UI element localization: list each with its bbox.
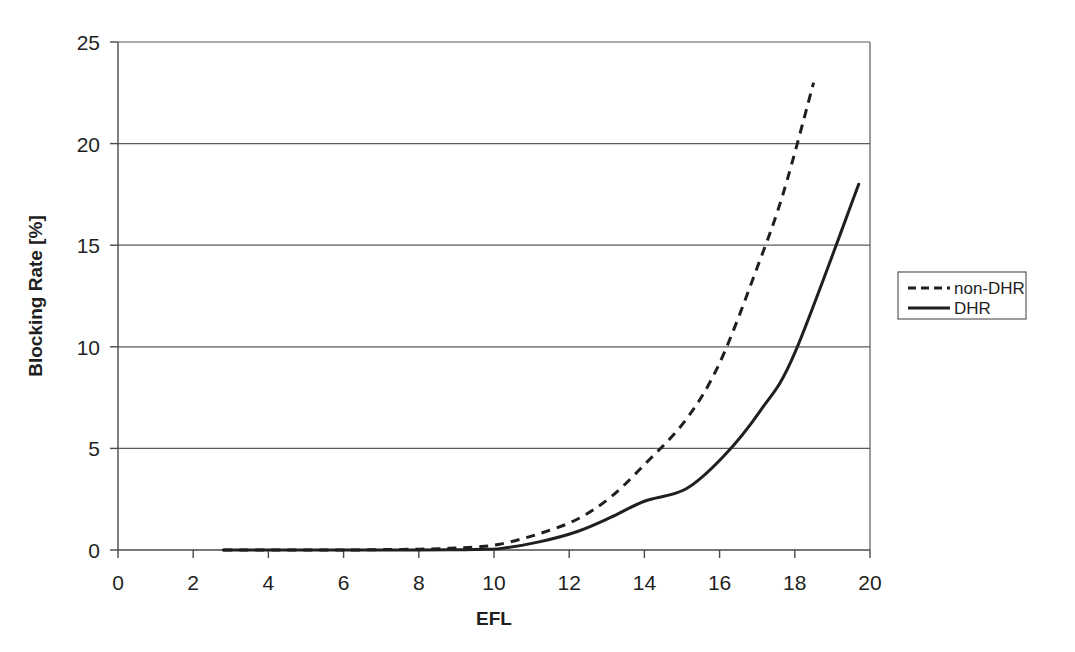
x-tick-label-18: 18 [783,571,806,594]
blocking-rate-line-chart: 25 20 15 10 5 0 0 2 4 6 8 10 12 [0,0,1075,652]
y-axis-title: Blocking Rate [%] [25,215,46,377]
x-tick-label-20: 20 [858,571,881,594]
y-tick-label-10: 10 [77,336,100,359]
legend-label-dhr: DHR [954,299,991,318]
x-tick-label-10: 10 [482,571,505,594]
chart-figure: 25 20 15 10 5 0 0 2 4 6 8 10 12 [0,0,1075,652]
y-tick-label-0: 0 [88,539,100,562]
x-axis-title: EFL [476,608,512,629]
x-tick-label-4: 4 [263,571,275,594]
x-tick-label-16: 16 [708,571,731,594]
x-tick-label-6: 6 [338,571,350,594]
x-tick-label-12: 12 [558,571,581,594]
legend-label-non-dhr: non-DHR [954,279,1025,298]
y-tick-label-25: 25 [77,31,100,54]
y-tick-label-5: 5 [88,437,100,460]
y-tick-label-15: 15 [77,234,100,257]
x-tick-label-8: 8 [413,571,425,594]
x-tick-label-2: 2 [187,571,199,594]
x-tick-label-14: 14 [633,571,657,594]
y-tick-label-20: 20 [77,133,100,156]
legend: non-DHR DHR [898,272,1026,319]
x-tick-label-0: 0 [112,571,124,594]
chart-background [0,0,1075,652]
